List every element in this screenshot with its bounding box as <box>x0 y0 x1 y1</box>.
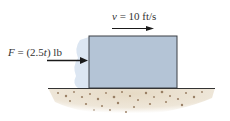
velocity-eq: = 10 ft/s <box>117 10 157 22</box>
force-symbol: F <box>8 46 15 58</box>
block <box>89 36 177 88</box>
velocity-arrow-icon <box>112 26 154 31</box>
force-label: F = (2.5t) lb <box>8 46 62 58</box>
force-arrow-icon <box>47 57 88 64</box>
ground <box>48 88 215 116</box>
force-unit: ) lb <box>47 46 62 58</box>
force-eq: = (2.5 <box>15 46 44 58</box>
velocity-label: v = 10 ft/s <box>112 10 156 22</box>
